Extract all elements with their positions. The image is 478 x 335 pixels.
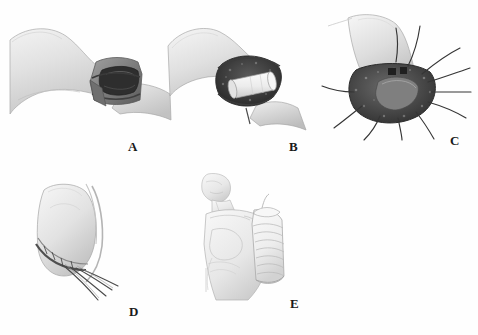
panel-b-distal-limb: [250, 102, 306, 130]
panel-d-illustration: [28, 182, 160, 307]
surgical-figure: A: [0, 0, 478, 335]
panel-d: D: [28, 182, 160, 307]
panel-c-dark-notch-1: [388, 68, 396, 75]
panel-a-label: A: [128, 140, 138, 153]
panel-c-illustration: [318, 12, 473, 140]
panel-a-illustration: [8, 22, 173, 137]
panel-b-tissue-strand: [246, 108, 250, 124]
panel-a-cavity: [99, 66, 139, 95]
panel-a: A: [8, 22, 173, 137]
panel-c-label: C: [450, 134, 460, 147]
panel-c-dark-notch-2: [400, 67, 407, 74]
panel-e-illustration: [186, 172, 308, 304]
panel-d-closed-flap: [37, 184, 96, 276]
panel-b-illustration: [160, 20, 310, 142]
panel-c: C: [318, 12, 473, 140]
panel-e: E: [186, 172, 308, 304]
panel-e-bandage-tie: [262, 194, 269, 208]
panel-e-bandage-fold: [254, 208, 280, 217]
panel-d-label: D: [129, 305, 139, 318]
panel-b: B: [160, 20, 310, 142]
panel-b-label: B: [289, 140, 298, 153]
panel-e-label: E: [290, 297, 299, 310]
panel-e-head: [202, 173, 231, 202]
